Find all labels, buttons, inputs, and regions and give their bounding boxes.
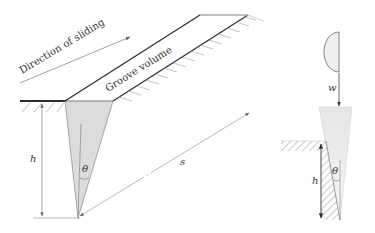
surface-hatching	[22, 103, 64, 112]
h-label-right: h	[312, 175, 318, 186]
direction-label: Direction of sliding	[17, 16, 107, 76]
s-label: s	[180, 156, 185, 167]
s-dimension-arrow	[80, 113, 249, 216]
material-surface-hatch	[281, 141, 321, 151]
theta-label-left: θ	[82, 163, 88, 174]
slope-hatching	[119, 17, 256, 101]
sliding-groove-diagram: Direction of sliding Groove volume h θ s…	[0, 0, 375, 233]
groove-far-edge-ext	[248, 15, 264, 21]
indenter-semicircle	[324, 32, 339, 72]
theta-label-right: θ	[332, 165, 338, 176]
right-indenter-diagram: w h θ	[281, 32, 352, 220]
left-groove-diagram: Direction of sliding Groove volume h θ s	[17, 15, 264, 218]
w-label: w	[328, 82, 337, 93]
h-label-left: h	[30, 153, 36, 164]
